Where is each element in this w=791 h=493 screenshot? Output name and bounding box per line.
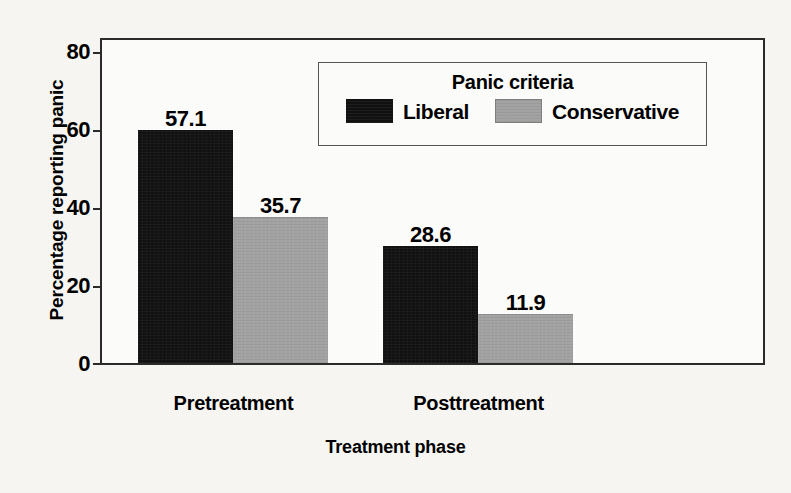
- legend-label-liberal: Liberal: [403, 101, 469, 122]
- y-tick-0: 0: [44, 353, 90, 375]
- bar-pretreatment-liberal: [138, 130, 233, 363]
- bar-pretreatment-conservative: [233, 217, 328, 363]
- y-tickmark-80: [93, 52, 102, 54]
- y-tick-60: 60: [44, 119, 90, 141]
- y-tickmark-0: [93, 363, 102, 365]
- value-label-pretreatment-conservative: 35.7: [230, 195, 331, 217]
- legend-swatch-liberal-icon: [346, 99, 393, 123]
- y-tickmark-60: [93, 130, 102, 132]
- x-axis-title: Treatment phase: [0, 437, 791, 457]
- y-tick-40: 40: [44, 197, 90, 219]
- x-category-posttreatment: Posttreatment: [331, 392, 626, 414]
- legend-item-conservative: Conservative: [495, 99, 679, 123]
- legend-item-liberal: Liberal: [346, 99, 469, 123]
- y-tick-20: 20: [44, 275, 90, 297]
- legend-items: Liberal Conservative: [319, 99, 706, 123]
- y-tickmark-40: [93, 208, 102, 210]
- legend: Panic criteria Liberal Conservative: [318, 62, 707, 146]
- y-axis-tick-labels: 80 60 40 20 0: [40, 0, 90, 493]
- legend-swatch-conservative-icon: [495, 99, 542, 123]
- value-label-posttreatment-conservative: 11.9: [475, 292, 576, 314]
- bar-posttreatment-liberal: [383, 246, 478, 363]
- legend-label-conservative: Conservative: [552, 101, 679, 122]
- y-tickmark-20: [93, 286, 102, 288]
- y-tick-80: 80: [44, 41, 90, 63]
- bar-chart-figure: Percentage reporting panic 80 60 40 20 0…: [0, 0, 791, 493]
- value-label-posttreatment-liberal: 28.6: [380, 224, 481, 246]
- bar-posttreatment-conservative: [478, 314, 573, 363]
- value-label-pretreatment-liberal: 57.1: [135, 108, 236, 130]
- legend-title: Panic criteria: [319, 70, 706, 94]
